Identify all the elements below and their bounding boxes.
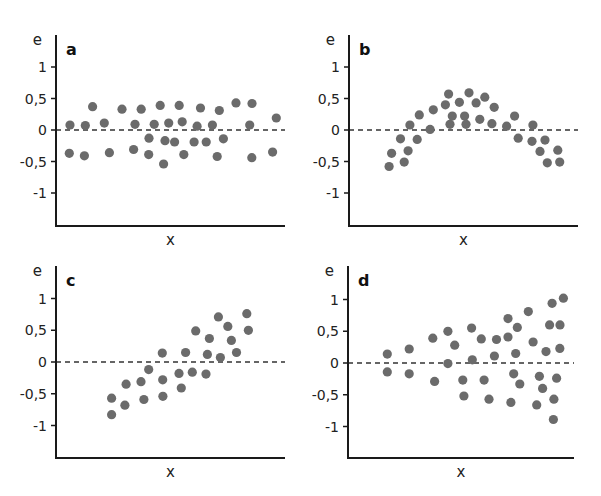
data-point bbox=[503, 314, 512, 323]
x-axis-title: x bbox=[166, 231, 175, 249]
data-point bbox=[503, 332, 512, 341]
data-point bbox=[80, 151, 89, 160]
data-point bbox=[404, 146, 413, 155]
data-point bbox=[202, 137, 211, 146]
data-point bbox=[247, 153, 256, 162]
residual-plots-figure: 10,50-0,5-1exa 10,50-0,5-1exb 10,50-0,5-… bbox=[0, 0, 601, 496]
data-point bbox=[242, 309, 251, 318]
data-point bbox=[514, 134, 523, 143]
y-tick-label: -1 bbox=[326, 185, 340, 201]
data-point bbox=[178, 117, 187, 126]
data-point bbox=[160, 136, 169, 145]
data-point bbox=[428, 334, 437, 343]
data-point bbox=[555, 158, 564, 167]
data-point bbox=[527, 137, 536, 146]
panel-label: c bbox=[66, 271, 75, 290]
data-point bbox=[159, 159, 168, 168]
data-point bbox=[177, 383, 186, 392]
y-tick-label: 0,5 bbox=[25, 91, 47, 107]
data-point bbox=[383, 367, 392, 376]
y-axis-title: e bbox=[325, 262, 334, 280]
data-point bbox=[524, 307, 533, 316]
data-point bbox=[387, 149, 396, 158]
data-point bbox=[216, 353, 225, 362]
data-point bbox=[553, 146, 562, 155]
y-tick-label: 0,5 bbox=[317, 323, 339, 339]
data-point bbox=[245, 120, 254, 129]
y-tick-label: -1 bbox=[325, 419, 339, 435]
data-point bbox=[175, 101, 184, 110]
data-point bbox=[144, 150, 153, 159]
data-point bbox=[120, 401, 129, 410]
data-point bbox=[413, 135, 422, 144]
panel-a: 10,50-0,5-1exa bbox=[20, 31, 285, 249]
data-point bbox=[429, 105, 438, 114]
data-point bbox=[223, 322, 232, 331]
data-point bbox=[191, 326, 200, 335]
data-point bbox=[502, 122, 511, 131]
y-tick-label: 1 bbox=[330, 292, 339, 308]
data-point bbox=[510, 112, 519, 121]
data-point bbox=[158, 375, 167, 384]
panel-d: 10,50-0,5-1exd bbox=[312, 262, 574, 481]
data-point bbox=[405, 344, 414, 353]
data-point bbox=[515, 379, 524, 388]
data-point bbox=[535, 372, 544, 381]
y-axis-title: e bbox=[326, 31, 335, 49]
y-tick-label: -1 bbox=[33, 185, 47, 201]
y-tick-label: 0,5 bbox=[25, 322, 47, 338]
y-axis-title: e bbox=[33, 31, 42, 49]
data-point bbox=[472, 98, 481, 107]
data-point bbox=[400, 158, 409, 167]
data-point bbox=[559, 294, 568, 303]
data-point bbox=[201, 370, 210, 379]
data-point bbox=[555, 344, 564, 353]
data-point bbox=[130, 120, 139, 129]
data-point bbox=[450, 341, 459, 350]
data-point bbox=[459, 391, 468, 400]
data-point bbox=[213, 152, 222, 161]
y-tick-label: 0 bbox=[38, 122, 47, 138]
data-point bbox=[170, 137, 179, 146]
data-point bbox=[247, 99, 256, 108]
x-axis-title: x bbox=[459, 231, 468, 249]
data-point bbox=[468, 355, 477, 364]
data-point bbox=[460, 112, 469, 121]
data-point bbox=[528, 120, 537, 129]
data-point bbox=[150, 120, 159, 129]
data-point bbox=[65, 120, 74, 129]
data-point bbox=[464, 88, 473, 97]
y-tick-label: 0 bbox=[38, 354, 47, 370]
data-point bbox=[244, 326, 253, 335]
data-point bbox=[179, 150, 188, 159]
data-point bbox=[480, 93, 489, 102]
data-point bbox=[477, 334, 486, 343]
data-point bbox=[538, 384, 547, 393]
data-point bbox=[203, 350, 212, 359]
y-tick-label: -0,5 bbox=[20, 154, 47, 170]
data-point bbox=[535, 147, 544, 156]
data-point bbox=[487, 119, 496, 128]
y-tick-label: -1 bbox=[33, 418, 47, 434]
data-point bbox=[441, 100, 450, 109]
data-point bbox=[81, 121, 90, 130]
data-point bbox=[144, 134, 153, 143]
y-tick-label: 1 bbox=[38, 291, 47, 307]
data-point bbox=[552, 374, 561, 383]
panel-label: d bbox=[358, 271, 369, 290]
data-point bbox=[492, 335, 501, 344]
data-point bbox=[188, 368, 197, 377]
data-point bbox=[139, 395, 148, 404]
data-point bbox=[129, 145, 138, 154]
data-point bbox=[448, 112, 457, 121]
data-point bbox=[196, 103, 205, 112]
data-point bbox=[467, 324, 476, 333]
data-point bbox=[430, 377, 439, 386]
data-point bbox=[405, 369, 414, 378]
data-point bbox=[100, 119, 109, 128]
y-tick-label: 0,5 bbox=[318, 91, 340, 107]
data-point bbox=[272, 113, 281, 122]
panel-c: 10,50-0,5-1exc bbox=[20, 262, 285, 481]
data-point bbox=[444, 90, 453, 99]
data-point bbox=[117, 105, 126, 114]
